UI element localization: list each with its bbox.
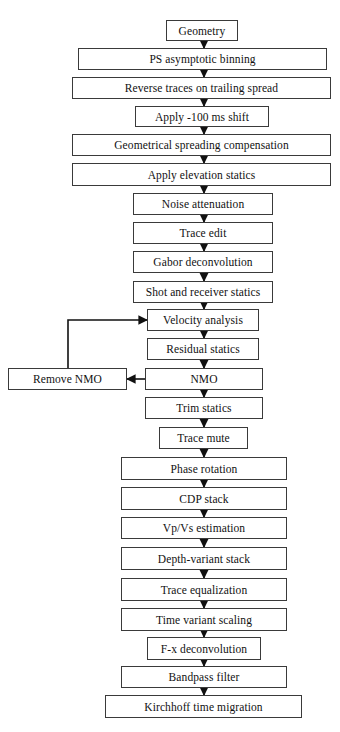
flow-step-f-x-deconvolution: F-x deconvolution — [147, 637, 261, 660]
flow-step-gabor-deconvolution: Gabor deconvolution — [133, 251, 273, 273]
flow-step-time-variant-scaling: Time variant scaling — [121, 608, 287, 631]
flow-step-geometry: Geometry — [166, 20, 238, 41]
flow-step-bandpass-filter: Bandpass filter — [121, 666, 287, 688]
flowchart-canvas: GeometryPS asymptotic binningReverse tra… — [0, 0, 340, 732]
flow-step-residual-statics: Residual statics — [147, 338, 259, 360]
flow-step-trace-mute: Trace mute — [159, 427, 248, 449]
flow-step-geometrical-spreading-compensation: Geometrical spreading compensation — [72, 134, 331, 156]
flow-step-cdp-stack: CDP stack — [121, 487, 287, 510]
connector-arrow — [68, 320, 147, 368]
flow-step-phase-rotation: Phase rotation — [121, 457, 287, 480]
flow-step-apply-100-ms-shift: Apply -100 ms shift — [135, 106, 269, 127]
flow-step-shot-and-receiver-statics: Shot and receiver statics — [133, 281, 273, 303]
flow-step-velocity-analysis: Velocity analysis — [147, 309, 259, 331]
flow-step-kirchhoff-time-migration: Kirchhoff time migration — [105, 695, 302, 718]
flow-step-trace-edit: Trace edit — [133, 222, 273, 244]
flow-step-depth-variant-stack: Depth-variant stack — [121, 547, 287, 570]
flow-step-vp-vs-estimation: Vp/Vs estimation — [121, 517, 287, 539]
flow-step-ps-asymptotic-binning: PS asymptotic binning — [78, 48, 327, 70]
flow-step-remove-nmo: Remove NMO — [8, 368, 127, 390]
flow-step-trim-statics: Trim statics — [145, 397, 263, 419]
flow-step-noise-attenuation: Noise attenuation — [133, 193, 273, 215]
flow-step-apply-elevation-statics: Apply elevation statics — [72, 163, 331, 186]
flow-step-reverse-traces-on-trailing-spread: Reverse traces on trailing spread — [72, 77, 331, 99]
flow-step-nmo: NMO — [145, 368, 263, 390]
flow-step-trace-equalization: Trace equalization — [121, 578, 287, 601]
